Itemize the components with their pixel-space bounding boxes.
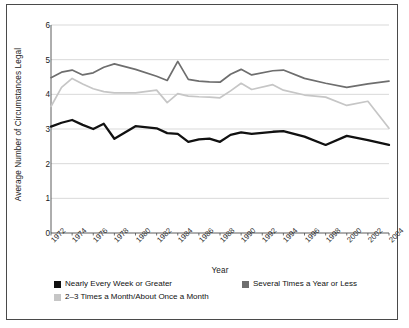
- chart-legend: Nearly Every Week or Greater Several Tim…: [54, 279, 394, 305]
- x-axis-title: Year: [140, 266, 300, 275]
- legend-item-several-times-a-year: Several Times a Year or Less: [242, 279, 357, 289]
- legend-row-1: Nearly Every Week or Greater Several Tim…: [54, 279, 394, 292]
- series-line: [51, 61, 389, 87]
- y-tick-label: 3: [28, 125, 50, 134]
- legend-item-2-3-times-a-month: 2–3 Times a Month/About Once a Month: [54, 292, 209, 302]
- legend-row-2: 2–3 Times a Month/About Once a Month: [54, 292, 394, 305]
- legend-label: Nearly Every Week or Greater: [65, 279, 172, 289]
- legend-swatch-icon: [242, 281, 249, 288]
- legend-swatch-icon: [54, 294, 61, 301]
- y-tick-label: 2: [28, 159, 50, 168]
- legend-item-nearly-every-week: Nearly Every Week or Greater: [54, 279, 172, 289]
- chart-figure: 1972197419761978198019821984198619881990…: [0, 0, 409, 328]
- legend-label: 2–3 Times a Month/About Once a Month: [65, 292, 209, 302]
- y-tick-label: 1: [28, 194, 50, 203]
- y-tick-label: 5: [28, 55, 50, 64]
- legend-swatch-icon: [54, 281, 61, 288]
- series-line: [51, 120, 389, 145]
- y-tick-label: 6: [28, 21, 50, 30]
- y-axis-title: Average Number of Circumstances Legal: [14, 45, 23, 205]
- legend-label: Several Times a Year or Less: [253, 279, 357, 289]
- y-tick-label: 0: [28, 229, 50, 238]
- y-axis-ticks: 0123456: [26, 0, 50, 328]
- y-tick-label: 4: [28, 90, 50, 99]
